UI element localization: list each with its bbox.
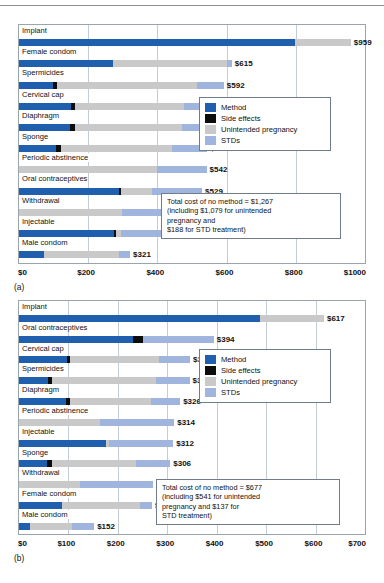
note-line: Total cost of no method = $677 [162,483,334,492]
bar-segment-pregnancy [19,481,80,488]
bar-segment-stds [136,460,170,467]
bar-segment-method [19,82,53,89]
chart-row: Male condom$321 [19,238,365,259]
note-line: pregnancy and [167,216,335,225]
bar-value-label: $542 [210,165,228,175]
bar-value-label: $617 [327,314,345,324]
category-label: Female condom [21,47,77,56]
bar-value-label: $306 [173,459,191,469]
bar-segment-stds [100,419,175,426]
category-label: Oral contraceptives [21,323,88,332]
category-label: Periodic abstinence [21,406,89,415]
stacked-bar [19,209,177,216]
stacked-bar [19,523,94,530]
category-label: Oral contraceptives [21,174,88,183]
legend-swatch-stds [205,136,216,145]
chart-a-plot-area: Implant$959Female condom$615Spermicides$… [18,24,366,264]
legend-label-pregnancy: Unintended pregnancy [221,377,297,386]
stacked-bar [19,145,207,152]
stacked-bar [19,398,180,405]
legend-swatch-pregnancy [205,125,216,134]
bar-value-label: $592 [227,81,245,91]
x-axis-tick: $600 [216,267,234,278]
chart-row: Injectable$312 [19,427,365,448]
stacked-bar [19,82,224,89]
bar-segment-stds [143,336,214,343]
stacked-bar [19,251,130,258]
bar-segment-method [19,398,66,405]
stacked-bar [19,377,190,384]
bar-segment-pregnancy [57,82,197,89]
chart-b-x-axis: $0$100$200$300$400$500$600$700 [18,537,366,550]
legend-label-side: Side effects [221,366,261,375]
x-axis-tick: $400 [146,267,164,278]
x-axis-tick: $200 [77,267,95,278]
legend-swatch-pregnancy [205,377,216,386]
legend-label-stds: STDs [221,388,240,397]
legend-swatch-side [205,114,216,123]
legend-label-side: Side effects [221,114,261,123]
bar-segment-pregnancy [62,502,139,509]
chart-row: Periodic abstinence$542 [19,153,365,174]
x-axis-tick: $600 [305,538,323,549]
bar-segment-method [19,460,47,467]
bar-segment-pregnancy [44,251,119,258]
bar-segment-pregnancy [70,356,159,363]
chart-row: Periodic abstinence$314 [19,406,365,427]
bar-segment-stds [151,398,180,405]
chart-row: Sponge$306 [19,448,365,469]
legend-item-stds: STDs [205,387,325,398]
bar-segment-stds [156,377,189,384]
legend-item-pregnancy: Unintended pregnancy [205,124,325,135]
category-label: Male condom [21,238,69,247]
category-label: Spermicides [21,364,65,373]
category-label: Withdrawal [21,468,61,477]
legend-item-method: Method [205,354,325,365]
x-axis-tick: $1000 [344,267,366,278]
chart-a-x-axis: $0$200$400$600$800$1000 [18,266,366,279]
stacked-bar [19,336,214,343]
category-label: Implant [21,26,48,35]
bar-value-label: $321 [133,250,151,260]
stacked-bar [19,166,207,173]
bar-segment-stds [80,481,154,488]
bar-segment-method [19,336,133,343]
x-axis-tick: $700 [348,538,366,549]
bar-segment-method [19,523,30,530]
x-axis-tick: $200 [107,538,125,549]
chart-row: Implant$959 [19,26,365,47]
bar-segment-method [19,230,114,237]
note-line: (including $541 for unintended [162,492,334,501]
bar-segment-pregnancy [19,209,122,216]
stacked-bar [19,440,173,447]
bar-segment-method [19,39,295,46]
bar-segment-pregnancy [75,124,182,131]
bar-segment-method [19,124,70,131]
bar-segment-pregnancy [121,188,152,195]
legend-swatch-method [205,103,216,112]
category-label: Cervical cap [21,344,65,353]
bar-segment-stds [159,356,190,363]
stacked-bar [19,39,351,46]
legend-swatch-method [205,355,216,364]
x-axis-tick: $0 [18,538,27,549]
note-line: STD treatment) [162,511,334,520]
chart-note-box: Total cost of no method = $677(including… [156,479,340,525]
bar-segment-method [19,145,56,152]
bar-segment-pregnancy [70,398,152,405]
chart-legend: MethodSide effectsUnintended pregnancyST… [199,97,331,151]
chart-row: Spermicides$592 [19,68,365,89]
category-label: Cervical cap [21,90,65,99]
bar-segment-method [19,60,113,67]
bar-value-label: $959 [354,38,372,48]
bar-segment-pregnancy [30,523,72,530]
bar-segment-stds [197,82,224,89]
bar-segment-pregnancy [19,166,157,173]
legend-swatch-stds [205,388,216,397]
chart-row: Implant$617 [19,302,365,323]
category-label: Withdrawal [21,196,61,205]
legend-label-method: Method [221,355,246,364]
category-label: Sponge [21,448,49,457]
legend-item-pregnancy: Unintended pregnancy [205,376,325,387]
bar-value-label: $314 [177,418,195,428]
